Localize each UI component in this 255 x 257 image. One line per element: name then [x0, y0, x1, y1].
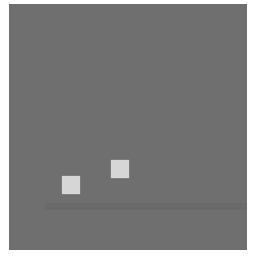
light-square-left	[62, 176, 80, 194]
gray-background-field	[9, 4, 247, 250]
shadow-band	[45, 203, 247, 210]
light-square-right	[111, 160, 129, 178]
